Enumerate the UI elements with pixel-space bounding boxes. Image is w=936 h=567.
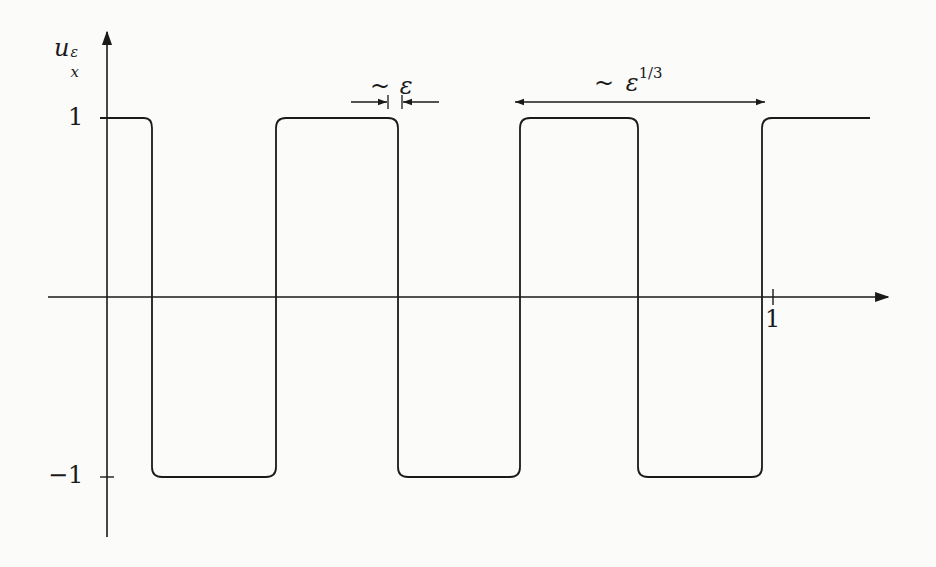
y-axis-label-sub: x xyxy=(70,63,78,81)
x-tick-label-one: 1 xyxy=(765,305,780,333)
period-exponent: 1/3 xyxy=(639,64,663,82)
y-tick-label-minus-one: −1 xyxy=(48,461,83,489)
y-tick-label-plus-one: 1 xyxy=(68,103,83,131)
y-axis-label: uεx xyxy=(54,34,83,62)
figure-square-wave: uεx 1 −1 1 ~ ε ~ ε1/3 xyxy=(0,0,936,567)
period-tilde-symbol: ~ xyxy=(594,69,614,97)
period-label: ~ ε1/3 xyxy=(594,68,663,97)
plot-canvas xyxy=(0,0,936,567)
y-axis-label-base: u xyxy=(54,34,69,62)
tilde-symbol: ~ xyxy=(370,72,390,100)
y-axis-label-sup: ε xyxy=(70,44,78,60)
epsilon-symbol: ε xyxy=(400,72,413,100)
period-epsilon-symbol: ε xyxy=(626,69,639,97)
epsilon-width-label: ~ ε xyxy=(370,72,413,100)
